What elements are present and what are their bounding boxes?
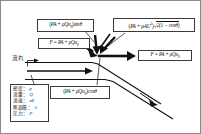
sin-component-formula-box: (PA + ρQu0)sinθ [37, 19, 94, 32]
legend-row: 圧力 ： P [13, 111, 46, 117]
cos-component-formula-text: (PA + ρQu0)cosθ [63, 88, 97, 96]
inlet-flow-arrowhead [85, 68, 93, 75]
force-left-formula-text: F = PA + ρQu0 [50, 39, 79, 47]
diagram-canvas: (PA + ρQu0)sinθ F = PA + ρQu0 (PA + ρAU2… [0, 0, 201, 134]
legend-symbol: P [29, 111, 32, 117]
cos-box-leader-line [97, 58, 100, 85]
flow-label-pointer-arrowhead [34, 59, 39, 63]
force-right-formula-text: F = PA + ρQu0 [151, 51, 180, 59]
resultant-formula-box: (PA + ρAU2)√2(1 − cosθ) [113, 18, 195, 32]
sin-component-formula-text: (PA + ρQu0)sinθ [49, 21, 82, 29]
flow-label-pointer-line [28, 61, 36, 67]
resultant-formula-text: (PA + ρAU2)√2(1 − cosθ) [129, 22, 180, 29]
flow-label: 流れ [12, 54, 23, 62]
cos-component-formula-box: (PA + ρQu0)cosθ [50, 86, 110, 99]
resultant-box-leader-line [108, 33, 125, 46]
force-right-formula-box: F = PA + ρQu0 [138, 50, 192, 61]
symbol-legend-box: 密度 ： ρ 流量 ： Q 流速 ： u0 断面積 ： A 圧力 ： P [10, 84, 49, 122]
outlet-force-arrowhead [127, 51, 136, 61]
legend-label: 圧力 [13, 111, 22, 117]
legend-symbol: A [34, 105, 37, 111]
force-left-formula-box: F = PA + ρQu0 [38, 38, 90, 49]
